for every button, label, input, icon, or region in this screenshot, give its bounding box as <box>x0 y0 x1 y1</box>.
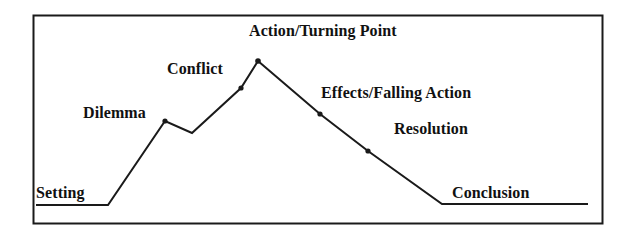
label-resolution: Resolution <box>394 121 468 137</box>
marker-conflict <box>238 85 243 90</box>
marker-action-turning-point <box>255 58 261 64</box>
label-setting: Setting <box>36 185 85 201</box>
label-effects-falling-action: Effects/Falling Action <box>321 85 471 101</box>
marker-effects-falling-action <box>317 111 322 116</box>
marker-resolution <box>365 148 370 153</box>
marker-dilemma <box>162 118 167 123</box>
label-conflict: Conflict <box>167 61 223 77</box>
label-action-turning-point: Action/Turning Point <box>249 23 397 39</box>
label-conclusion: Conclusion <box>452 185 529 201</box>
label-dilemma: Dilemma <box>83 105 146 121</box>
plot-diagram-figure: Setting Dilemma Conflict Action/Turning … <box>0 0 629 240</box>
